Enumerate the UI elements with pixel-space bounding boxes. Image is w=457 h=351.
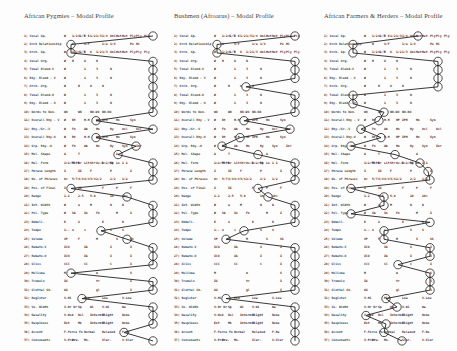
scale-cell: Ab xyxy=(384,127,388,131)
scale-cell: Het xyxy=(116,34,122,38)
scale-cell: # xyxy=(214,50,216,54)
scale-cell: # xyxy=(214,67,216,71)
scale-cell: 1/V xyxy=(260,42,266,46)
scale-cell: 10 xyxy=(110,194,114,198)
scale-cell: tr xyxy=(246,279,250,283)
scale-cell: S xyxy=(130,271,132,275)
row-label: 8) Tonal Blend-O xyxy=(324,93,362,97)
row-label: 17) Phrase Length xyxy=(24,169,62,173)
scale-cell: 1/u xyxy=(102,42,108,46)
scale-cell: 5-8 xyxy=(390,194,396,198)
scale-cell: Mk xyxy=(228,321,232,325)
scale-cell: S xyxy=(110,228,112,232)
profile-row: 35) RaspinessExtMkIntermit.SlightNone xyxy=(150,320,300,328)
scale-cell: I xyxy=(280,245,282,249)
scale-cell: m xyxy=(246,271,248,275)
scale-cell: V-Hi xyxy=(214,296,221,300)
scale-cell: # xyxy=(64,93,66,97)
scale-cell: HP xyxy=(96,118,100,122)
scale-cell: gl xyxy=(246,288,250,292)
panel-african-pygmies: African Pygmies – Modal Profile 1) Vocal… xyxy=(0,8,150,343)
scale-cell: 1/2 xyxy=(396,50,402,54)
scale-cell: 1/2 xyxy=(122,177,128,181)
scale-cell: N xyxy=(402,84,404,88)
scale-cell: S xyxy=(266,237,268,241)
scale-cell: Ovl xyxy=(422,127,428,131)
row-label: 32) Register xyxy=(174,296,212,300)
scale-cell: 5-8 xyxy=(90,194,96,198)
scale-cell: 4 xyxy=(78,34,80,38)
scale-cell: 6 xyxy=(90,50,92,54)
scale-cell: M xyxy=(396,237,398,241)
profile-row: 12) Rhy./Gr.-V#FnAbHnRyOvlOvl xyxy=(150,125,300,133)
profile-row: 34) NasalityV-NsdNslIntermit.SlightNone xyxy=(150,311,300,319)
scale-cell: None xyxy=(122,313,129,317)
row-label: 30) Tremolo xyxy=(24,279,62,283)
profile-row: 29) MelismaMmS xyxy=(150,269,300,277)
scale-cell: Str xyxy=(240,161,246,165)
scale-cell: # xyxy=(64,67,66,71)
scale-cell: F.Force Fo xyxy=(364,330,383,334)
scale-cell: X xyxy=(228,220,230,224)
scale-cell: Hn xyxy=(96,144,100,148)
profile-row: 24) Tempo1--nsSS xyxy=(0,227,150,235)
profile-row: 35) RaspinessExtMkIntermit.SlightNone xyxy=(300,320,450,328)
scale-cell: Mo. xyxy=(234,338,240,342)
profile-row: 6) Rhy. Blend - V#13N xyxy=(300,74,450,82)
scale-cell: Ply xyxy=(430,34,436,38)
scale-cell: CCC xyxy=(214,262,220,266)
scale-cell: Sp xyxy=(260,161,264,165)
scale-cell: Fn xyxy=(372,144,376,148)
scale-cell: GG xyxy=(364,288,368,292)
profile-row: 5) Tonal Blend-V#13N xyxy=(0,66,150,74)
scale-cell: In xyxy=(384,211,388,215)
scale-cell: M xyxy=(266,211,268,215)
profile-row: 34) NasalityV-NsdNslIntermit.SlightNone xyxy=(300,311,450,319)
scale-cell: 1 xyxy=(234,93,236,97)
scale-cell: A xyxy=(116,152,118,156)
row-label: 4) Vocal Org. xyxy=(24,59,62,63)
scale-cell: Low xyxy=(102,296,108,300)
profile-row: 36) AccentF.Force FoNormalRelaxedF-Re xyxy=(150,328,300,336)
scale-cell: P xyxy=(416,186,418,190)
scale-cell: Syn xyxy=(430,135,436,139)
scale-cell: I xyxy=(214,186,216,190)
scale-cell: I xyxy=(364,186,366,190)
scale-cell: F xyxy=(252,186,254,190)
scale-cell: Sp xyxy=(410,161,414,165)
scale-cell: I xyxy=(64,169,66,173)
row-label: 22) Pol. Type xyxy=(24,211,62,215)
profile-row: 29) MelismaMmS xyxy=(300,269,450,277)
scale-cell: Normal xyxy=(384,330,395,334)
scale-cell: I xyxy=(410,245,412,249)
profile-row: 10) Words to Non.WOWNNN-WONN-NO xyxy=(0,108,150,116)
row-label: 28) Gliss xyxy=(24,262,62,266)
row-label: 25) Volume xyxy=(24,237,62,241)
profile-row: 19) Pos. of FinalIIIFPF xyxy=(300,184,450,192)
scale-cell: II xyxy=(378,169,382,173)
scale-cell: F xyxy=(78,237,80,241)
scale-cell: A xyxy=(266,152,268,156)
scale-cell: N xyxy=(410,203,412,207)
scale-cell: X xyxy=(78,220,80,224)
scale-cell: I xyxy=(410,254,412,258)
scale-cell: Hi xyxy=(436,42,440,46)
row-label: 6) Rhy. Blend - V xyxy=(174,76,212,80)
scale-cell: 10+ xyxy=(122,194,128,198)
scale-cell: I xyxy=(130,169,132,173)
row-label: 8) Tonal Blend-O xyxy=(24,93,62,97)
profile-row: 33) Vo. WidthV-Nr NrSpWiV-WiWa xyxy=(150,303,300,311)
scale-cell: Inr xyxy=(136,144,142,148)
scale-cell: Mid xyxy=(384,296,390,300)
scale-cell: S xyxy=(416,237,418,241)
scale-cell: # xyxy=(64,84,66,88)
profile-row: 11) Overall Rhy - V#BtH-HHPIPHHnSyn xyxy=(300,117,450,125)
row-label: 3) Orch. Gp. xyxy=(174,50,212,54)
scale-cell: S xyxy=(116,237,118,241)
scale-cell: F xyxy=(378,237,380,241)
row-label: 10) Words to Non. xyxy=(174,110,212,114)
row-label: 22) Pol. Type xyxy=(174,211,212,215)
scale-cell: F xyxy=(228,237,230,241)
scale-cell: 1/3 xyxy=(396,34,402,38)
scale-cell: I xyxy=(280,262,282,266)
